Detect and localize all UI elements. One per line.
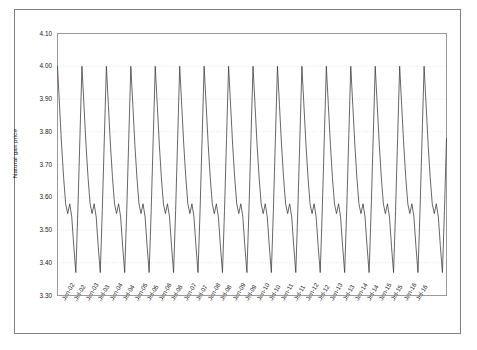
chart-figure: Natural gas price 4.104.003.903.803.703.…	[0, 0, 477, 350]
plot-area	[0, 0, 477, 350]
price-line-series	[58, 66, 447, 272]
